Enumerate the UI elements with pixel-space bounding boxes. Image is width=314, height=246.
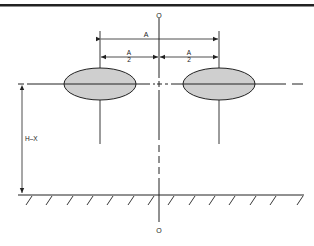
dimension-label-half-right-num: A [187, 49, 192, 56]
dimension-label-half-right-den: 2 [187, 56, 191, 63]
axis-label-bottom: O [156, 227, 162, 234]
dimension-diagram: O O A A 2 A 2 H–X [0, 0, 314, 246]
ground-hatching [26, 196, 303, 205]
top-border-rule [0, 4, 314, 7]
dimension-label-half-left-num: A [127, 49, 132, 56]
dimension-label-a: A [144, 31, 149, 38]
axis-label-top: O [156, 12, 162, 19]
dimension-label-height: H–X [25, 135, 38, 142]
dimension-label-half-left-den: 2 [127, 56, 131, 63]
